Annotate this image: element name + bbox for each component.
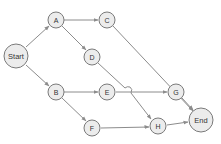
edge-start-b bbox=[26, 65, 49, 86]
flow-diagram: Start A C D B E F G H End bbox=[0, 0, 221, 144]
edge-start-a bbox=[26, 26, 49, 47]
edge-a-d bbox=[62, 26, 86, 50]
node-g[interactable]: G bbox=[168, 84, 184, 100]
node-b[interactable]: B bbox=[48, 84, 64, 100]
node-e-label: E bbox=[105, 89, 110, 96]
node-f[interactable]: F bbox=[84, 120, 100, 136]
node-h-label: H bbox=[155, 123, 160, 130]
node-end[interactable]: End bbox=[189, 108, 213, 132]
edges bbox=[26, 20, 193, 128]
node-f-label: F bbox=[90, 125, 94, 132]
edge-h-end bbox=[167, 122, 188, 125]
node-e[interactable]: E bbox=[99, 84, 115, 100]
node-d-label: D bbox=[89, 54, 94, 61]
node-a[interactable]: A bbox=[48, 12, 64, 28]
node-start-label: Start bbox=[8, 52, 25, 61]
node-c[interactable]: C bbox=[99, 12, 115, 28]
node-end-label: End bbox=[194, 116, 207, 125]
node-h[interactable]: H bbox=[150, 118, 166, 134]
node-b-label: B bbox=[54, 89, 59, 96]
edge-g-end bbox=[182, 98, 193, 110]
edge-f-h bbox=[101, 127, 149, 128]
node-c-label: C bbox=[104, 17, 109, 24]
edge-b-f bbox=[62, 98, 86, 121]
node-d[interactable]: D bbox=[84, 49, 100, 65]
node-g-label: G bbox=[173, 89, 178, 96]
node-a-label: A bbox=[54, 17, 59, 24]
node-start[interactable]: Start bbox=[4, 44, 28, 68]
